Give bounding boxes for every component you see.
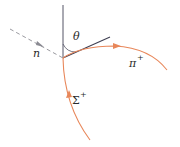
label-pion-charge: + bbox=[137, 53, 144, 62]
decay-diagram: n θ π + Σ + bbox=[0, 0, 180, 147]
label-theta: θ bbox=[73, 30, 80, 43]
pion-track bbox=[63, 46, 167, 70]
label-sigma: Σ bbox=[72, 94, 80, 107]
label-pion: π bbox=[128, 57, 137, 70]
label-neutron: n bbox=[33, 47, 40, 60]
pion-arrow-icon bbox=[113, 43, 121, 49]
label-sigma-charge: + bbox=[80, 90, 87, 99]
angle-arc bbox=[63, 44, 76, 52]
tangent-reference-line bbox=[63, 37, 110, 58]
